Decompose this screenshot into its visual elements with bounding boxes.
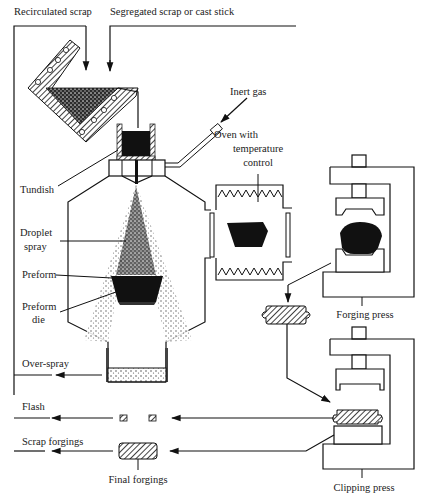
label-scrap-forgings: Scrap forgings <box>22 436 83 447</box>
atomizer-nozzle <box>109 160 165 184</box>
diagram-canvas: Recirculated scrap Segregated scrap or c… <box>0 0 428 497</box>
preform-leader <box>56 275 112 278</box>
label-over-spray: Over-spray <box>22 358 70 369</box>
label-inert-gas: Inert gas <box>230 86 266 97</box>
forged-blank <box>262 263 331 402</box>
label-recirculated-scrap: Recirculated scrap <box>14 6 92 17</box>
label-preform: Preform <box>22 269 56 280</box>
label-clipping-press: Clipping press <box>334 482 395 493</box>
preform-on-die <box>111 276 163 305</box>
segregated-scrap-line <box>110 26 296 71</box>
label-oven-line2: temperature <box>233 143 283 154</box>
oven <box>210 174 292 280</box>
forging-press <box>323 155 414 306</box>
label-droplet-line2: spray <box>24 241 47 252</box>
label-segregated-scrap: Segregated scrap or cast stick <box>110 6 235 17</box>
process-diagram: Recirculated scrap Segregated scrap or c… <box>0 0 428 497</box>
label-droplet-line1: Droplet <box>20 227 52 238</box>
label-final-forgings: Final forgings <box>108 474 167 485</box>
label-flash: Flash <box>22 401 46 412</box>
label-forging-press: Forging press <box>336 309 393 320</box>
clipping-press <box>323 327 414 478</box>
label-tundish: Tundish <box>20 184 55 195</box>
label-oven-line1: Oven with <box>214 129 259 140</box>
label-preform-die-line2: die <box>32 314 45 325</box>
label-preform-die-line1: Preform <box>22 301 56 312</box>
flash-return <box>14 415 334 421</box>
label-oven-line3: control <box>243 157 273 168</box>
